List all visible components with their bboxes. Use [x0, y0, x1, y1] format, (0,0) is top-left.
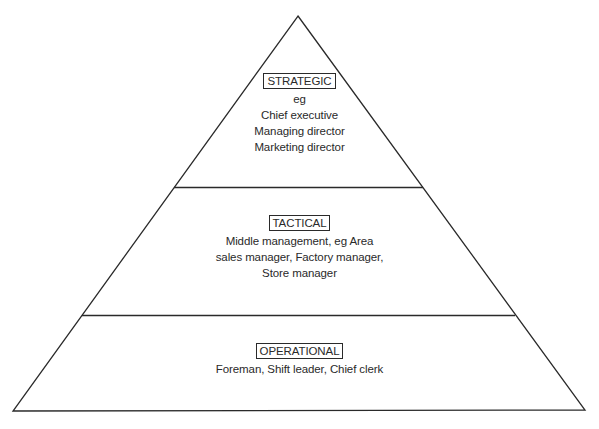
tier-text-line: sales manager, Factory manager, [0, 249, 599, 265]
tier-text-line: Store manager [0, 265, 599, 281]
tier-text-line: eg [0, 91, 599, 107]
tier-text-line: Foreman, Shift leader, Chief clerk [0, 361, 599, 377]
tier-text-line: Managing director [0, 123, 599, 139]
tier-strategic: STRATEGIC eg Chief executive Managing di… [0, 73, 599, 155]
tier-text-line: Chief executive [0, 107, 599, 123]
tier-tactical: TACTICAL Middle management, eg Area sale… [0, 215, 599, 281]
tier-label-operational: OPERATIONAL [256, 343, 344, 359]
tier-text-line: Marketing director [0, 139, 599, 155]
tier-operational: OPERATIONAL Foreman, Shift leader, Chief… [0, 343, 599, 377]
tier-label-tactical: TACTICAL [269, 215, 331, 231]
tier-label-strategic: STRATEGIC [263, 73, 335, 89]
tier-text-line: Middle management, eg Area [0, 233, 599, 249]
